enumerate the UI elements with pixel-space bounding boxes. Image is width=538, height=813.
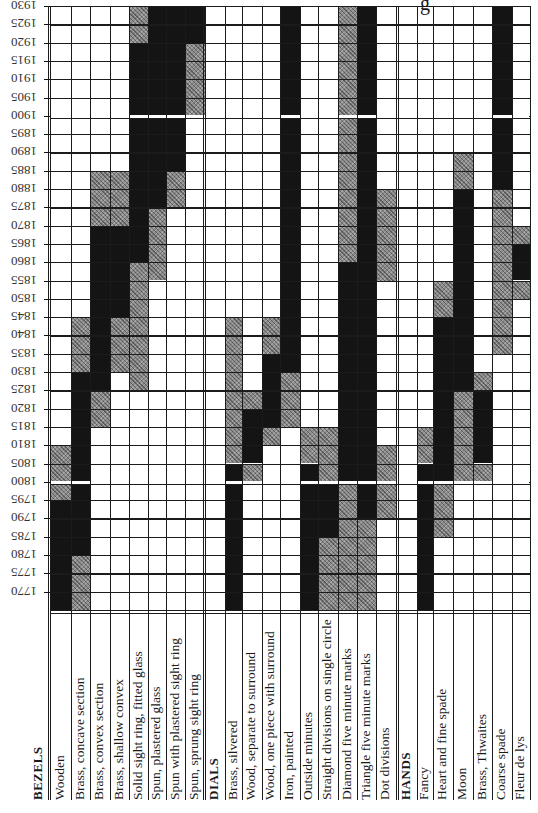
- category-label: Spun, plastered glass: [149, 686, 163, 800]
- category-label: Fancy: [417, 767, 431, 800]
- hatched-bar: [473, 372, 492, 390]
- year-label: 1810: [2, 438, 46, 451]
- year-label: 1890: [2, 145, 46, 158]
- grid-row-line: [50, 189, 530, 190]
- grid-column-line: [417, 6, 418, 800]
- grid-row-line: [50, 43, 530, 44]
- category-label: Diamond five minute marks: [340, 648, 354, 800]
- grid-column-line: [50, 6, 51, 800]
- grid-row-line: [50, 226, 530, 227]
- solid-bar: [318, 482, 338, 537]
- grid-row-line: [50, 592, 530, 593]
- grid-row-line: [50, 134, 530, 135]
- timeline-chart: 1930192519201915191019051900189518901885…: [0, 0, 538, 813]
- hatched-bar: [280, 372, 300, 427]
- year-label: 1910: [2, 72, 46, 85]
- year-label: 1795: [2, 493, 46, 506]
- grid-row-line: [50, 555, 530, 556]
- group-divider-line: [203, 6, 204, 800]
- grid-row-line: [50, 98, 530, 99]
- year-label: 1865: [2, 237, 46, 250]
- solid-bar: [110, 226, 129, 318]
- category-label: Brass, silvered: [226, 721, 240, 800]
- group-header-hands: HANDS: [399, 752, 413, 800]
- hatched-bar: [71, 317, 90, 372]
- year-label: 1930: [2, 0, 46, 12]
- year-label: 1775: [2, 566, 46, 579]
- grid-row-line: [50, 335, 530, 336]
- year-label: 1785: [2, 530, 46, 543]
- century-line: [50, 484, 530, 485]
- grid-row-line: [50, 518, 530, 519]
- year-label: 1915: [2, 54, 46, 67]
- grid-column-line: [512, 6, 513, 800]
- hatched-bar: [453, 390, 473, 482]
- group-divider-line: [398, 6, 399, 800]
- year-label: 1840: [2, 328, 46, 341]
- grid-column-line: [225, 6, 226, 800]
- category-label: Brass, convex section: [92, 683, 106, 800]
- year-label: 1920: [2, 36, 46, 49]
- grid-column-line: [530, 6, 531, 800]
- title-fragment: g: [420, 0, 430, 15]
- year-label: 1825: [2, 383, 46, 396]
- hatched-bar: [242, 390, 262, 408]
- grid-row-line: [50, 317, 530, 318]
- group-header-bezels: BEZELS: [31, 746, 45, 800]
- year-label: 1770: [2, 585, 46, 598]
- year-label: 1805: [2, 457, 46, 470]
- solid-bar: [166, 6, 185, 171]
- grid-row-line: [50, 573, 530, 574]
- hatched-bar: [90, 171, 110, 226]
- grid-row-line: [50, 390, 530, 391]
- century-line: [50, 118, 530, 119]
- grid-row-line: [50, 79, 530, 80]
- grid-row-line: [50, 409, 530, 410]
- grid-row-line: [50, 537, 530, 538]
- grid-column-line: [453, 6, 454, 800]
- hatched-bar: [50, 445, 71, 500]
- grid-row-line: [50, 445, 530, 446]
- grid-column-line: [280, 6, 281, 800]
- group-header-dials: DIALS: [207, 758, 221, 800]
- grid-row-line: [50, 427, 530, 428]
- year-label: 1790: [2, 511, 46, 524]
- grid-column-line: [148, 6, 149, 800]
- year-label: 1850: [2, 292, 46, 305]
- hatched-bar: [242, 464, 262, 482]
- year-label: 1780: [2, 548, 46, 561]
- category-label: Fleur de lys: [513, 736, 527, 800]
- category-label: Wooden: [53, 755, 67, 800]
- category-label: Brass, concave section: [73, 677, 87, 800]
- solid-bar: [90, 226, 110, 391]
- grid-row-line: [50, 244, 530, 245]
- hatched-bar: [318, 427, 338, 482]
- category-label: Wood, separate to surround: [244, 652, 258, 800]
- category-label: Moon: [455, 768, 469, 800]
- grid-row-line: [50, 262, 530, 263]
- category-label: Dot divisions: [378, 728, 392, 800]
- grid-column-line: [433, 6, 434, 800]
- grid-column-line: [376, 6, 377, 800]
- category-label: Solid sight ring, fitted glass: [131, 651, 145, 800]
- grid-row-line: [50, 610, 530, 611]
- grid-row-line: [50, 464, 530, 465]
- hatched-bar: [262, 427, 280, 445]
- category-label: Straight divisions on single circle: [320, 619, 334, 800]
- category-label: Outside minutes: [301, 712, 315, 800]
- year-label: 1870: [2, 219, 46, 232]
- category-label: Brass, shallow convex: [112, 679, 126, 800]
- grid-row-line: [50, 299, 530, 300]
- grid-bottom-line: [50, 613, 530, 614]
- year-label: 1885: [2, 164, 46, 177]
- year-label: 1820: [2, 402, 46, 415]
- solid-bar: [433, 317, 453, 482]
- category-label: Brass, Thwaites: [475, 714, 489, 800]
- grid-column-line: [492, 6, 493, 800]
- hatched-bar: [110, 317, 129, 372]
- category-label: Triangle five minute marks: [359, 653, 373, 800]
- year-label: 1880: [2, 182, 46, 195]
- hatched-bar: [376, 189, 396, 281]
- hatched-bar: [71, 555, 90, 610]
- category-label: Wood, one piece with surround: [263, 631, 277, 800]
